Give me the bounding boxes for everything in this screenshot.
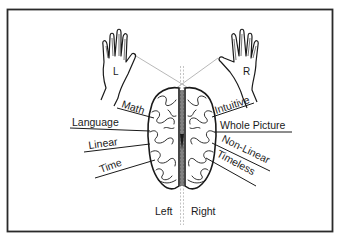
left-function-time: Time bbox=[98, 156, 124, 175]
right-function-intuitive: Intuitive bbox=[213, 93, 251, 116]
left-hand-label: L bbox=[113, 66, 119, 77]
left-hemisphere-label: Left bbox=[155, 205, 173, 217]
right-function-whole-picture: Whole Picture bbox=[220, 119, 286, 131]
right-hemisphere-label: Right bbox=[191, 205, 216, 217]
brain-icon bbox=[148, 88, 216, 189]
left-function-language: Language bbox=[72, 116, 119, 128]
right-hand-label: R bbox=[243, 66, 250, 77]
brain-lateralization-diagram: L R bbox=[0, 0, 339, 240]
left-function-math: Math bbox=[120, 97, 146, 116]
